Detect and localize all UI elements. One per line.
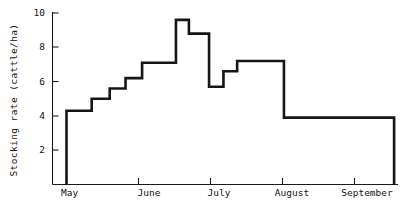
stocking-rate-chart: Stocking rate (cattle/ha) 10 8 6 4 2 May… xyxy=(0,0,408,211)
y-tick-label-10: 10 xyxy=(34,7,46,18)
x-label-august: August xyxy=(275,187,309,198)
y-axis-title: Stocking rate (cattle/ha) xyxy=(8,24,19,177)
y-tick-label-4: 4 xyxy=(39,110,45,121)
chart-background xyxy=(0,0,408,211)
x-label-may: May xyxy=(61,187,78,198)
x-label-july: July xyxy=(208,187,231,198)
y-tick-label-2: 2 xyxy=(39,144,45,155)
x-label-june: June xyxy=(138,187,161,198)
chart-canvas: Stocking rate (cattle/ha) 10 8 6 4 2 May… xyxy=(0,0,408,211)
x-label-september: September xyxy=(341,187,393,198)
y-tick-label-8: 8 xyxy=(39,41,45,52)
y-tick-label-6: 6 xyxy=(39,76,45,87)
